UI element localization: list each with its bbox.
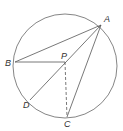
- label-C: C: [64, 119, 71, 129]
- label-A: A: [103, 14, 110, 24]
- segment-AB: [15, 25, 101, 62]
- label-B: B: [5, 58, 11, 68]
- label-P: P: [61, 51, 67, 61]
- segment-PC-dashed: [65, 62, 67, 117]
- segment-AD: [30, 25, 101, 100]
- label-D: D: [23, 100, 30, 110]
- segment-AC: [67, 25, 101, 117]
- circle-diagram: A B P D C: [0, 0, 123, 131]
